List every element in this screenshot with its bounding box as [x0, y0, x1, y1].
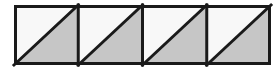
square-1 [14, 5, 78, 65]
square-2 [78, 5, 142, 65]
figure-container [0, 0, 277, 74]
square-3 [143, 5, 207, 65]
square-4 [207, 5, 271, 65]
triangles-figure [0, 0, 277, 74]
